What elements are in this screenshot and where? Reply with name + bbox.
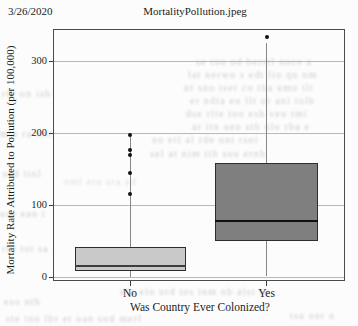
- x-tick-No: [130, 281, 131, 286]
- box-No: [75, 247, 186, 271]
- gridline-0: [54, 277, 344, 278]
- gridline-200: [54, 133, 344, 134]
- y-tick-label-100: 100: [17, 200, 47, 210]
- y-tick-label-200: 200: [17, 128, 47, 138]
- printed-page: se tnu od berrtl noce a lat nerwo s edt …: [0, 0, 358, 326]
- x-tick-label-Yes: Yes: [237, 287, 297, 299]
- y-tick-300: [49, 61, 53, 62]
- y-tick-0: [49, 277, 53, 278]
- gridline-300: [54, 61, 344, 62]
- page-title: MortalityPollution.jpeg: [110, 5, 280, 17]
- outlier-No-1: [128, 171, 132, 175]
- outlier-Yes-0: [265, 35, 269, 39]
- median-Yes: [215, 220, 318, 222]
- outlier-No-3: [128, 148, 132, 152]
- bleedthrough-text: ste ino lbr et oan sud merl: [6, 313, 256, 324]
- x-tick-Yes: [266, 281, 267, 286]
- box-Yes: [215, 163, 318, 241]
- plot-area: [53, 29, 345, 281]
- outlier-No-2: [128, 153, 132, 157]
- y-tick-label-300: 300: [17, 56, 47, 66]
- y-tick-100: [49, 205, 53, 206]
- median-No: [75, 265, 186, 267]
- page-date: 3/26/2020: [8, 5, 53, 17]
- x-axis-title: Was Country Ever Colonized?: [80, 301, 320, 313]
- x-tick-label-No: No: [100, 287, 160, 299]
- y-axis-title: Mortality Rate Attributed to Pollution (…: [4, 34, 16, 286]
- bleedthrough-text: eso ntb: [4, 296, 41, 307]
- y-tick-label-0: 0: [17, 272, 47, 282]
- y-tick-200: [49, 133, 53, 134]
